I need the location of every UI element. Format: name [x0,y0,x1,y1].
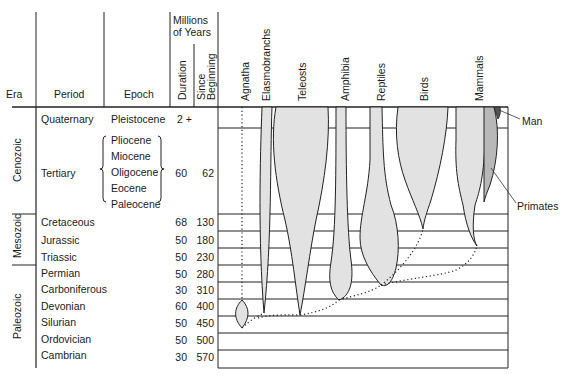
evolution-diagram [0,0,566,377]
spindle-primates [484,107,497,202]
spindle-amphibia [330,107,352,300]
spindle-agnatha [236,300,248,328]
spindle-birds [396,107,448,229]
spindle-mammals [456,107,485,246]
spindle-teleosts [273,107,328,315]
spindle-reptiles [360,107,398,286]
